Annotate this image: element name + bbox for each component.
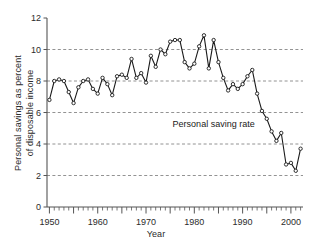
data-point <box>275 139 278 142</box>
data-point <box>135 76 138 79</box>
y-axis-title: Personal savings as percent of disposabl… <box>13 29 43 197</box>
data-point <box>183 60 186 63</box>
data-point <box>294 169 297 172</box>
data-point <box>265 117 268 120</box>
x-tick-label-1970: 1970 <box>136 217 156 227</box>
data-point <box>57 78 60 81</box>
data-point <box>164 53 167 56</box>
data-point <box>246 75 249 78</box>
chart-annotations: Personal saving rate <box>173 119 255 129</box>
data-point <box>120 73 123 76</box>
data-point <box>154 65 157 68</box>
data-point <box>173 38 176 41</box>
data-point <box>217 60 220 63</box>
data-point <box>101 76 104 79</box>
y-axis-title-line-2: of disposable income <box>25 29 37 197</box>
saving-rate-line <box>49 35 300 170</box>
data-point <box>144 81 147 84</box>
data-series-group <box>48 34 303 173</box>
gridlines <box>47 50 303 176</box>
data-point <box>284 163 287 166</box>
y-tick-label-0: 0 <box>36 202 41 212</box>
data-point <box>115 75 118 78</box>
data-point <box>53 79 56 82</box>
data-point <box>207 67 210 70</box>
data-point <box>62 79 65 82</box>
data-point <box>226 89 229 92</box>
x-tick-label-1950: 1950 <box>39 217 59 227</box>
data-point <box>91 87 94 90</box>
data-point <box>96 92 99 95</box>
saving-rate-markers <box>48 34 303 173</box>
x-tick-label-1990: 1990 <box>233 217 253 227</box>
data-point <box>82 79 85 82</box>
data-point <box>289 161 292 164</box>
data-point <box>159 48 162 51</box>
data-point <box>231 82 234 85</box>
data-point <box>67 90 70 93</box>
data-point <box>77 86 80 89</box>
data-point <box>270 130 273 133</box>
data-point <box>251 68 254 71</box>
data-point <box>106 82 109 85</box>
data-point <box>299 147 302 150</box>
data-point <box>149 54 152 57</box>
data-point <box>125 76 128 79</box>
x-tick-label-2000: 2000 <box>281 217 301 227</box>
data-point <box>212 38 215 41</box>
data-point <box>193 62 196 65</box>
data-point <box>139 71 142 74</box>
chart-figure: 024681012 195019601970198019902000 Perso… <box>0 0 312 248</box>
data-point <box>188 67 191 70</box>
annotation-saving-rate-label: Personal saving rate <box>173 119 255 129</box>
data-point <box>86 78 89 81</box>
data-point <box>260 109 263 112</box>
data-point <box>241 82 244 85</box>
x-axis-tick-labels: 195019601970198019902000 <box>39 217 301 227</box>
data-point <box>202 34 205 37</box>
y-axis-title-line-1: Personal savings as percent <box>13 29 25 197</box>
personal-saving-rate-line-chart: 024681012 195019601970198019902000 Perso… <box>0 0 312 248</box>
x-axis-ticks <box>49 207 300 214</box>
data-point <box>197 45 200 48</box>
x-axis-title: Year <box>0 229 312 239</box>
data-point <box>111 93 114 96</box>
data-point <box>178 38 181 41</box>
y-tick-label-12: 12 <box>31 13 41 23</box>
data-point <box>168 40 171 43</box>
data-point <box>130 57 133 60</box>
data-point <box>222 76 225 79</box>
data-point <box>280 131 283 134</box>
data-point <box>255 92 258 95</box>
x-tick-label-1960: 1960 <box>88 217 108 227</box>
x-tick-label-1980: 1980 <box>184 217 204 227</box>
data-point <box>48 98 51 101</box>
x-axis-title-text: Year <box>147 229 166 239</box>
data-point <box>72 101 75 104</box>
data-point <box>236 87 239 90</box>
